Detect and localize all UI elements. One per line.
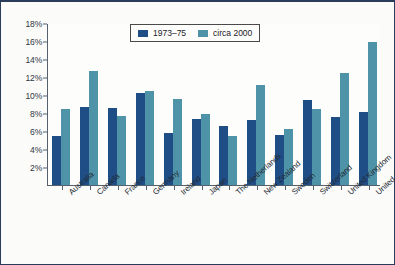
y-axis-tick-label: 10%	[26, 91, 42, 101]
bar-series-1[interactable]	[201, 114, 210, 185]
bar-series-1[interactable]	[61, 109, 70, 185]
x-axis-label: Japan	[207, 190, 213, 197]
y-axis: 18%16%14%12%10%8%6%4%2%	[1, 24, 47, 186]
plot-area	[47, 24, 380, 186]
y-axis-tick-label: 16%	[26, 37, 42, 47]
y-axis-tick-label: 8%	[30, 109, 42, 119]
chart-figure: 18%16%14%12%10%8%6%4%2% AustraliaCanadaF…	[0, 0, 395, 265]
x-axis-label: New Zealand	[262, 190, 268, 197]
series-0-swatch-icon	[138, 30, 148, 37]
bar-group	[164, 24, 182, 185]
bar-group	[80, 24, 98, 185]
x-axis-label: Canada	[95, 190, 101, 197]
bar-group	[331, 24, 349, 185]
y-axis-tick-label: 2%	[30, 163, 42, 173]
x-axis-label: The Netherlands	[234, 190, 240, 197]
x-axis-label: Germany	[151, 190, 157, 197]
legend-item-series-1[interactable]: circa 2000	[198, 28, 252, 38]
bar-group	[219, 24, 237, 185]
y-axis-tick-label: 4%	[30, 145, 42, 155]
y-axis-tick-label: 14%	[26, 55, 42, 65]
bar-series-1[interactable]	[89, 71, 98, 185]
x-axis-label: France	[123, 190, 129, 197]
bar-groups	[48, 24, 380, 185]
x-axis-label: United States	[374, 190, 380, 197]
bar-series-1[interactable]	[228, 136, 237, 185]
x-axis-label: United Kingdom	[346, 190, 352, 197]
legend-item-series-0[interactable]: 1973–75	[138, 28, 186, 38]
bar-group	[359, 24, 377, 185]
x-axis-label: Ireland	[179, 190, 185, 197]
series-1-swatch-icon	[198, 30, 208, 37]
bar-series-0[interactable]	[136, 93, 145, 185]
bar-group	[108, 24, 126, 185]
x-axis-labels: AustraliaCanadaFranceGermanyIrelandJapan…	[47, 190, 380, 262]
bar-series-1[interactable]	[145, 91, 154, 185]
bar-series-0[interactable]	[52, 136, 61, 186]
legend-label-series-1: circa 2000	[213, 28, 252, 38]
bar-group	[303, 24, 321, 185]
legend-label-series-0: 1973–75	[153, 28, 186, 38]
y-axis-tick-label: 6%	[30, 127, 42, 137]
x-axis-label: Australia	[67, 190, 73, 197]
chart-legend: 1973–75 circa 2000	[130, 24, 260, 42]
bar-group	[192, 24, 210, 185]
bar-group	[52, 24, 70, 185]
bar-group	[136, 24, 154, 185]
x-axis-label: Sweden	[290, 190, 296, 197]
x-axis-label: Switzerland	[318, 190, 324, 197]
y-axis-tick-label: 12%	[26, 73, 42, 83]
bar-group	[247, 24, 265, 185]
y-axis-tick-label: 18%	[26, 19, 42, 29]
